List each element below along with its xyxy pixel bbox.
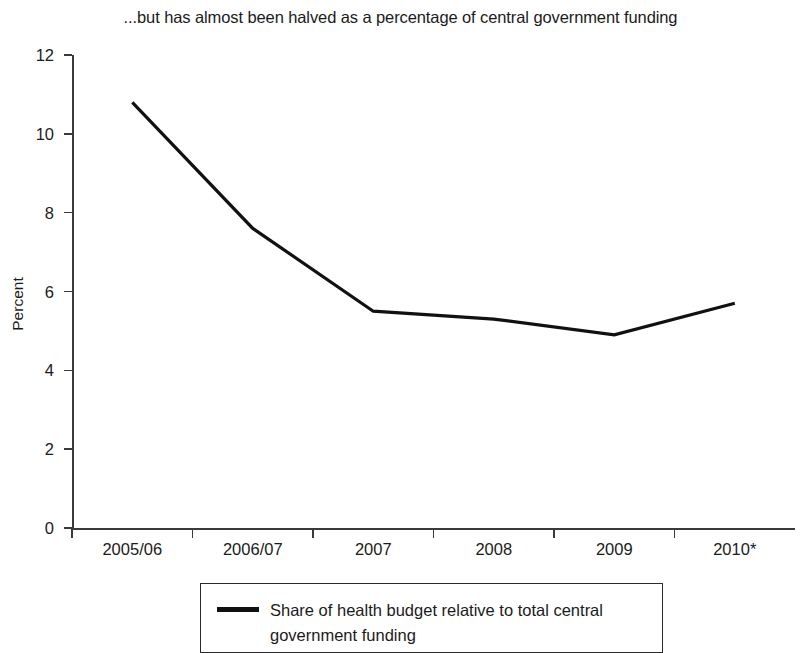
- x-axis-tick: [674, 529, 676, 538]
- chart-title: ...but has almost been halved as a perce…: [0, 8, 801, 27]
- x-axis-tick: [192, 529, 194, 538]
- y-axis-tick-label: 10: [8, 124, 54, 143]
- x-axis-tick-label: 2009: [544, 540, 684, 559]
- legend-item: Share of health budget relative to total…: [217, 598, 642, 648]
- y-axis-line: [72, 55, 74, 529]
- x-axis-tick: [71, 529, 73, 538]
- y-axis-tick: [64, 448, 72, 450]
- y-axis-tick: [64, 212, 72, 214]
- x-axis-tick-label: 2008: [424, 540, 564, 559]
- y-axis-tick: [64, 291, 72, 293]
- y-axis-tick-label: 6: [8, 282, 54, 301]
- y-axis-tick-label: 4: [8, 361, 54, 380]
- legend-item-label: Share of health budget relative to total…: [270, 598, 642, 648]
- y-axis-tick: [64, 370, 72, 372]
- y-axis-tick-label: 12: [8, 46, 54, 65]
- legend: Share of health budget relative to total…: [200, 583, 663, 653]
- y-axis-tick: [64, 54, 72, 56]
- x-axis-tick-label: 2005/06: [62, 540, 202, 559]
- x-axis-tick-label: 2010*: [665, 540, 801, 559]
- y-axis-tick-label: 0: [8, 519, 54, 538]
- y-axis-title: Percent: [9, 254, 27, 354]
- x-axis-tick: [433, 529, 435, 538]
- x-axis-tick: [553, 529, 555, 538]
- series-line-share-of-health-budget: [132, 102, 735, 335]
- y-axis-tick-label: 8: [8, 203, 54, 222]
- y-axis-tick: [64, 133, 72, 135]
- y-axis-tick-label: 2: [8, 440, 54, 459]
- legend-line-swatch-icon: [217, 607, 259, 612]
- x-axis-tick: [312, 529, 314, 538]
- x-axis-tick-label: 2006/07: [183, 540, 323, 559]
- x-axis-tick-label: 2007: [303, 540, 443, 559]
